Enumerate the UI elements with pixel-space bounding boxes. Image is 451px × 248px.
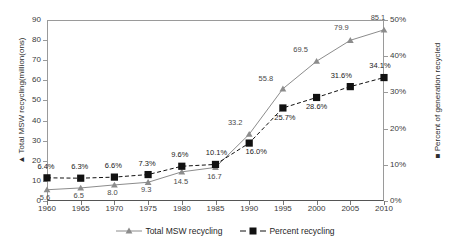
data-value-label: 28.6% [300,103,334,111]
data-value-label: 25.7% [268,114,302,122]
data-value-label: 16.7 [198,173,232,181]
data-value-label: 7.3% [130,160,164,168]
recycling-line-chart: 0102030405060708090 0%10%20%30%40%50% 19… [0,0,451,248]
data-point-square [380,74,387,81]
data-value-label: 10.1% [200,149,234,157]
data-value-label: 69.5 [284,46,318,54]
triangle-marker-icon [116,226,142,236]
data-value-label: 55.8 [249,75,283,83]
data-value-label: 79.9 [324,24,358,32]
data-value-label: 6.5 [62,192,96,200]
data-point-square [313,94,320,101]
data-value-label: 6.4% [29,163,63,171]
data-point-square [212,161,219,168]
data-point-triangle [246,131,253,137]
data-value-label: 5.6 [28,194,62,202]
data-value-label: 31.6% [324,72,358,80]
data-value-label: 6.6% [96,162,130,170]
data-point-square [77,175,84,182]
data-point-square [246,139,253,146]
data-value-label: 14.5 [164,178,198,186]
legend-label-percent-recycling: Percent recycling [269,227,334,236]
data-point-square [145,171,152,178]
data-point-square [111,174,118,181]
data-value-label: 85.1 [361,14,395,22]
data-value-label: 8.0 [95,189,129,197]
data-value-label: 9.6% [163,151,197,159]
data-value-label: 16.0% [239,148,273,156]
legend-item-percent-recycling: Percent recycling [240,226,334,236]
data-value-label: 9.3 [129,186,163,194]
data-point-square [178,163,185,170]
legend-item-total-msw-recycling: Total MSW recycling [116,226,222,236]
data-point-triangle [313,58,320,64]
legend-label-total-msw-recycling: Total MSW recycling [145,227,222,236]
square-marker-icon [240,226,266,236]
data-value-label: 6.3% [63,163,97,171]
data-point-square [43,174,50,181]
chart-legend: Total MSW recycling Percent recycling [0,226,451,236]
data-point-square [347,83,354,90]
data-point-square [279,104,286,111]
data-point-triangle [381,27,388,33]
data-value-label: 34.1% [363,62,397,70]
data-value-label: 33.2 [218,119,252,127]
